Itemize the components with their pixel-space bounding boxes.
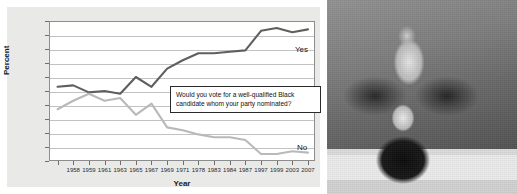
x-tick-label: 1997: [254, 167, 267, 173]
chart-panel: Percent 0102030405060708090100 195819591…: [0, 0, 327, 194]
x-tick-label: 1958: [67, 167, 80, 173]
x-tick-mark: [183, 161, 184, 165]
x-tick-mark: [89, 161, 90, 165]
x-tick-label: 1983: [207, 167, 220, 173]
x-tick-label: 1959: [82, 167, 95, 173]
x-tick-label: 1967: [145, 167, 158, 173]
series-line-yes: [58, 28, 308, 94]
x-tick-label: 2007: [301, 167, 314, 173]
x-tick-label: 2003: [286, 167, 299, 173]
x-tick-label: 1999: [270, 167, 283, 173]
x-tick-mark: [230, 161, 231, 165]
x-tick-mark: [58, 161, 59, 165]
x-tick-label: 1971: [176, 167, 189, 173]
x-tick-mark: [198, 161, 199, 165]
obama-lincoln-memorial-photo: [327, 0, 517, 194]
x-tick-mark: [136, 161, 137, 165]
x-tick-label: 1961: [98, 167, 111, 173]
x-tick-mark: [151, 161, 152, 165]
series-label-yes: Yes: [295, 45, 308, 54]
x-tick-mark: [277, 161, 278, 165]
chart-annotation-callout: Would you vote for a well-qualified Blac…: [170, 86, 321, 113]
x-tick-mark: [73, 161, 74, 165]
x-tick-label: 1984: [223, 167, 236, 173]
x-tick-label: 1965: [129, 167, 142, 173]
x-tick-mark: [245, 161, 246, 165]
figure-root: Percent 0102030405060708090100 195819591…: [0, 0, 517, 194]
x-tick-label: 1963: [114, 167, 127, 173]
x-axis-title: Year: [49, 179, 315, 188]
x-tick-label: 1969: [160, 167, 173, 173]
x-tick-label: 1978: [192, 167, 205, 173]
x-tick-label: 1987: [239, 167, 252, 173]
x-tick-mark: [292, 161, 293, 165]
x-tick-mark: [167, 161, 168, 165]
x-tick-mark: [214, 161, 215, 165]
x-tick-mark: [308, 161, 309, 165]
y-axis-title: Percent: [2, 46, 11, 75]
x-tick-mark: [120, 161, 121, 165]
series-label-no: No: [297, 143, 307, 152]
photo-panel: [327, 0, 517, 194]
y-tick-mark: [45, 161, 49, 162]
x-tick-mark: [105, 161, 106, 165]
x-tick-mark: [261, 161, 262, 165]
